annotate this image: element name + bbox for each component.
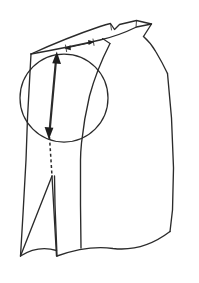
canvas-background (0, 0, 199, 283)
pattern-drawing (0, 0, 199, 283)
shoulder-tip-fold (136, 21, 137, 28)
pattern-figure-root (0, 0, 199, 283)
